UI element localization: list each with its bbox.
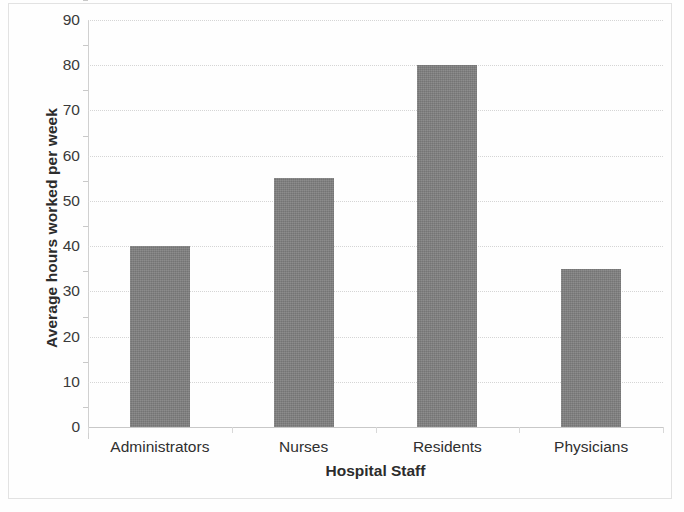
x-axis-title: Hospital Staff — [88, 462, 663, 480]
y-axis-tick-mark — [83, 0, 88, 1]
bar — [274, 178, 334, 427]
y-axis-tick-mark — [83, 45, 88, 46]
bar — [561, 269, 621, 427]
bar — [417, 65, 477, 427]
y-axis-tick-label: 50 — [16, 192, 80, 210]
y-axis-tick-label: 0 — [16, 418, 80, 436]
gridline — [88, 201, 663, 202]
y-axis-tick-label: 60 — [16, 147, 80, 165]
y-axis-tick-mark — [83, 136, 88, 137]
x-axis-tick-mark — [232, 427, 233, 433]
y-axis-tick-mark — [83, 181, 88, 182]
x-axis-tick-mark — [88, 427, 89, 433]
x-axis-tick-mark — [376, 427, 377, 433]
y-axis-tick-label: 10 — [16, 373, 80, 391]
plot-area — [88, 20, 663, 427]
x-axis-tick-label: Physicians — [501, 438, 681, 456]
y-axis-tick-label: 20 — [16, 328, 80, 346]
y-axis-tick-mark — [83, 226, 88, 227]
y-axis-tick-label: 40 — [16, 237, 80, 255]
y-axis-tick-label: 80 — [16, 56, 80, 74]
y-axis-tick-labels: 0102030405060708090 — [12, 20, 80, 427]
y-axis-tick-mark — [83, 90, 88, 91]
bar-chart-figure: Average hours worked per week 0102030405… — [0, 0, 684, 512]
y-axis-tick-mark — [83, 362, 88, 363]
bar — [130, 246, 190, 427]
x-axis-tick-mark — [519, 427, 520, 433]
y-axis-tick-mark — [83, 317, 88, 318]
gridline — [88, 110, 663, 111]
y-axis-tick-label: 30 — [16, 282, 80, 300]
y-axis-tick-mark — [83, 407, 88, 408]
gridline — [88, 65, 663, 66]
gridline — [88, 156, 663, 157]
y-axis-tick-label: 70 — [16, 101, 80, 119]
x-axis-tick-mark — [663, 427, 664, 433]
y-axis-tick-mark — [83, 271, 88, 272]
y-axis-tick-label: 90 — [16, 11, 80, 29]
gridline — [88, 20, 663, 21]
